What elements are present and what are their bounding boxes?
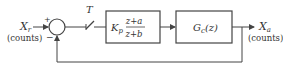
output-unit: (counts) bbox=[248, 33, 283, 43]
minus-sign: − bbox=[46, 32, 54, 42]
controller-denominator: z+b bbox=[124, 29, 142, 39]
svg-text:Xr: Xr bbox=[19, 20, 32, 34]
plus-sign: + bbox=[44, 15, 51, 24]
controller-numerator: z+a bbox=[125, 16, 143, 26]
sampler-period-label: T bbox=[86, 4, 94, 15]
input-unit: (counts) bbox=[7, 33, 42, 43]
input-label: Xr (counts) bbox=[7, 20, 42, 43]
output-label: Xa (counts) bbox=[248, 20, 283, 43]
block-diagram: Xr (counts) + − T Kp z+a z+b Gc(z) Xa (c… bbox=[0, 0, 283, 75]
sampler-switch-icon bbox=[83, 21, 106, 30]
svg-text:Xa: Xa bbox=[258, 20, 271, 34]
